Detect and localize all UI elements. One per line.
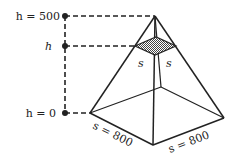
cross-section (135, 37, 176, 55)
label-base-side-left: s = 800 (91, 119, 135, 149)
marker-h (62, 43, 68, 49)
marker-h500 (62, 13, 68, 19)
label-section-s-right: s (166, 57, 172, 70)
pyramid-diagram: h = 500 h h = 0 s s s = 800 s = 800 (0, 0, 237, 162)
label-h500: h = 500 (16, 10, 60, 23)
label-section-s-left: s (138, 57, 144, 70)
label-h: h (45, 40, 52, 53)
marker-h0 (62, 110, 68, 116)
label-base-side-right: s = 800 (166, 128, 211, 155)
label-h0: h = 0 (26, 107, 56, 120)
